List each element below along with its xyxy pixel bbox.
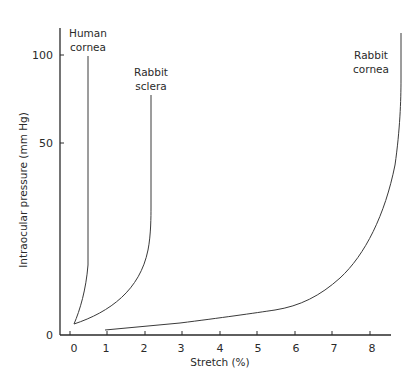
x-tick-label: 8	[369, 342, 376, 355]
svg-text:Rabbit: Rabbit	[354, 49, 388, 61]
x-tick-labels: 0 1 2 3 4 5 6 7 8	[71, 342, 376, 355]
svg-text:Human: Human	[69, 27, 107, 39]
x-tick-label: 1	[103, 342, 110, 355]
label-human-cornea: Human cornea	[69, 27, 107, 53]
x-axis-title: Stretch (%)	[190, 356, 249, 368]
x-tick-label: 0	[71, 342, 78, 355]
y-ticks: 100 50 0	[32, 49, 64, 342]
label-rabbit-cornea: Rabbit cornea	[353, 49, 389, 75]
y-tick-label: 50	[39, 137, 53, 150]
x-tick-label: 2	[141, 342, 148, 355]
x-tick-label: 5	[255, 342, 262, 355]
svg-text:sclera: sclera	[135, 80, 166, 92]
svg-text:cornea: cornea	[353, 63, 389, 75]
x-tick-label: 3	[178, 342, 185, 355]
label-rabbit-sclera: Rabbit sclera	[134, 66, 168, 92]
y-axis-title: Intraocular pressure (mm Hg)	[17, 112, 29, 268]
svg-text:cornea: cornea	[70, 41, 106, 53]
x-tick-label: 6	[293, 342, 300, 355]
curve-human-cornea	[74, 56, 88, 324]
svg-text:Rabbit: Rabbit	[134, 66, 168, 78]
x-tick-label: 7	[331, 342, 338, 355]
curve-rabbit-sclera	[74, 95, 151, 324]
x-tick-label: 4	[217, 342, 224, 355]
y-tick-label: 0	[46, 329, 53, 342]
pressure-stretch-chart: 100 50 0 0 1 2 3 4 5 6 7 8 Stretch (%) I…	[0, 0, 417, 386]
y-tick-label: 100	[32, 49, 53, 62]
